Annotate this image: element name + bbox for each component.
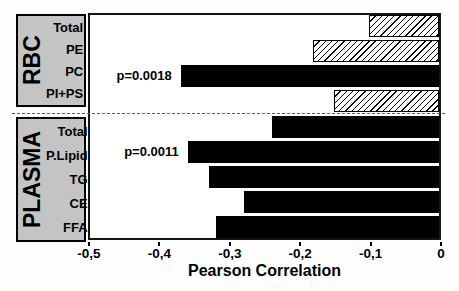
- p-value-annotation-p-lipid: p=0.0011: [124, 141, 179, 163]
- row-label-plasma-total: Total: [58, 125, 88, 138]
- row-label-plasma-p-lipid: P.Lipid: [46, 149, 88, 162]
- bar-plasma-ce: [244, 191, 439, 213]
- plasma-group-title: PLASMA: [18, 119, 46, 240]
- x-axis-tick-label-0-3: -0,3: [218, 246, 241, 261]
- row-label-plasma-ce: CE: [70, 197, 88, 210]
- bar-rbc-pi-ps: [334, 90, 439, 112]
- p-value-annotation-pc: p=0.0018: [116, 65, 171, 87]
- x-axis-tick-label-0-5: -0,5: [77, 246, 100, 261]
- x-axis-tick-label-0-4: -0,4: [148, 246, 171, 261]
- bar-plasma-p-lipid: [188, 141, 439, 163]
- bar-plasma-ffa: [216, 216, 439, 238]
- row-label-plasma-ffa: FFA: [63, 221, 88, 234]
- plasma-group-box: PLASMA TotalP.LipidTGCEFFA: [16, 117, 86, 242]
- bar-rbc-total: [369, 15, 439, 37]
- bar-plasma-total: [272, 116, 440, 138]
- row-label-rbc-pi-ps: PI+PS: [46, 87, 83, 100]
- bar-plasma-tg: [209, 166, 439, 188]
- bar-rbc-pe: [313, 40, 439, 62]
- row-label-plasma-tg: TG: [70, 173, 88, 186]
- plasma-row-labels: TotalP.LipidTGCEFFA: [46, 119, 91, 240]
- rbc-row-labels: TotalPEPCPI+PS: [46, 16, 86, 105]
- rbc-group-box: RBC TotalPEPCPI+PS: [16, 14, 86, 107]
- plot-area: p=0.0018p=0.0011: [88, 13, 441, 240]
- rbc-group-title: RBC: [18, 16, 46, 105]
- row-label-rbc-total: Total: [53, 21, 83, 34]
- row-label-rbc-pc: PC: [65, 65, 83, 78]
- x-axis-tick-label-0-1: -0,1: [359, 246, 382, 261]
- x-axis-label: Pearson Correlation: [88, 262, 441, 280]
- x-axis-tick-label-0-2: -0,2: [289, 246, 312, 261]
- correlation-figure: RBC TotalPEPCPI+PS PLASMA TotalP.LipidTG…: [0, 0, 459, 291]
- row-label-rbc-pe: PE: [66, 43, 83, 56]
- x-axis-tick-label-0: 0: [437, 246, 445, 261]
- section-divider: [12, 113, 445, 114]
- bar-rbc-pc: [181, 65, 439, 87]
